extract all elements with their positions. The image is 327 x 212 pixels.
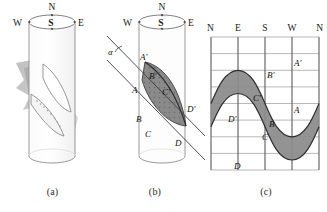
compass-label-north-b: N	[159, 2, 166, 12]
caption-c: (c)	[205, 186, 327, 197]
panel-b: N S W E α A' B' C' D' A B C	[105, 0, 205, 212]
panel-c: N E S W N A' B' C' D' A B C D (c)	[205, 0, 327, 212]
point-label-A-prime-b: A'	[139, 52, 148, 62]
point-label-D-prime-c: D'	[227, 114, 237, 124]
point-label-C-b: C	[145, 129, 152, 139]
compass-label-south-a: S	[48, 18, 53, 28]
point-label-D-prime-b: D'	[186, 104, 196, 114]
point-label-A-prime-c: A'	[293, 58, 302, 68]
compass-label-east-b: E	[188, 18, 194, 28]
compass-label-north-a: N	[49, 2, 56, 12]
figure-root: N S W E (a)	[0, 0, 327, 212]
axis-tick-E: E	[235, 23, 241, 33]
panel-a: N S W E (a)	[0, 0, 105, 212]
caption-b: (b)	[105, 186, 205, 197]
panel-c-chart: N E S W N A' B' C' D' A B C D	[205, 0, 327, 185]
caption-a: (a)	[0, 186, 105, 197]
compass-label-west-a: W	[13, 18, 22, 28]
point-label-B-prime-b: B'	[149, 71, 157, 81]
axis-tick-N-right: N	[316, 23, 323, 33]
point-label-B-prime-c: B'	[267, 70, 275, 80]
axis-tick-S: S	[262, 23, 267, 33]
compass-label-west-b: W	[123, 18, 132, 28]
panel-b-drawing: N S W E α A' B' C' D' A B C	[105, 0, 217, 185]
point-label-D-b: D	[174, 138, 182, 148]
compass-label-east-a: E	[78, 18, 84, 28]
point-label-B-b: B	[136, 114, 142, 124]
point-label-B-c: B	[269, 119, 275, 129]
point-label-D-c: D	[233, 161, 241, 171]
point-label-C-prime-c: C'	[253, 93, 262, 103]
point-label-A-b: A	[131, 85, 138, 95]
point-label-A-c: A	[293, 105, 300, 115]
point-label-C-c: C	[262, 132, 269, 142]
dip-angle-label: α	[108, 47, 113, 57]
panel-a-drawing: N S W E	[0, 0, 105, 185]
point-label-C-prime-b: C'	[162, 87, 171, 97]
axis-tick-W: W	[288, 23, 297, 33]
axis-tick-N-left: N	[207, 23, 214, 33]
compass-label-south-b: S	[158, 18, 163, 28]
